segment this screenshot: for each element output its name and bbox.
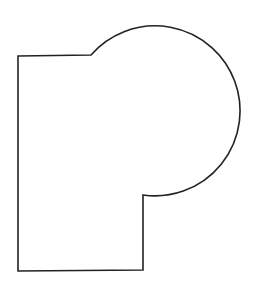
diagram-canvas [0, 0, 258, 281]
shape-outline [18, 26, 240, 271]
